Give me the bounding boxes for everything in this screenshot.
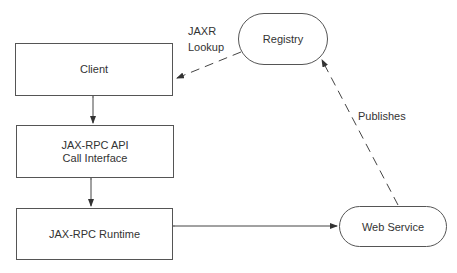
web-service-node: Web Service xyxy=(339,206,447,247)
lookup-label-line1: JAXR xyxy=(188,25,228,38)
publishes-arrow xyxy=(322,60,398,205)
registry-node: Registry xyxy=(238,13,328,65)
registry-label: Registry xyxy=(263,33,303,45)
api-box: JAX-RPC API Call Interface xyxy=(16,125,174,178)
runtime-box: JAX-RPC Runtime xyxy=(16,208,173,260)
api-label-line2: Call Interface xyxy=(63,152,128,165)
runtime-label: JAX-RPC Runtime xyxy=(49,228,140,241)
web-service-label: Web Service xyxy=(362,221,424,233)
client-box: Client xyxy=(15,43,173,96)
client-label: Client xyxy=(80,63,108,76)
lookup-label-line2: Lookup xyxy=(188,41,228,54)
api-label-line1: JAX-RPC API xyxy=(61,139,128,152)
lookup-edge-label: JAXR Lookup xyxy=(188,25,228,54)
publishes-edge-label: Publishes xyxy=(358,110,406,123)
jaxr-lookup-arrow xyxy=(177,52,241,78)
